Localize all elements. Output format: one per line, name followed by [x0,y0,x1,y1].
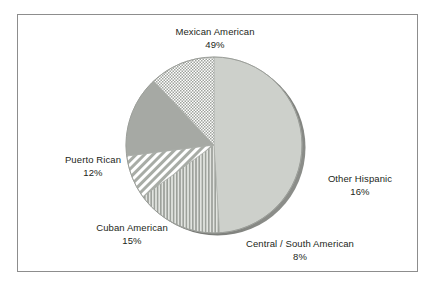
pie-slice-mexican-american[interactable] [214,57,302,233]
label-cuban-american: Cuban American 15% [66,222,198,247]
figure-root: Mexican American 49% Puerto Rican 12% Cu… [0,0,434,285]
label-mexican-american-name: Mexican American [140,26,290,39]
label-other-hispanic: Other Hispanic 16% [300,173,420,198]
pie-slices [126,57,302,233]
label-cuban-american-name: Cuban American [66,222,198,235]
label-central-south-american-name: Central / South American [222,238,378,251]
label-puerto-rican: Puerto Rican 12% [38,154,148,179]
label-central-south-american-value: 8% [222,251,378,264]
label-central-south-american: Central / South American 8% [222,238,378,263]
label-other-hispanic-value: 16% [300,186,420,199]
label-mexican-american: Mexican American 49% [140,26,290,51]
label-puerto-rican-value: 12% [38,167,148,180]
label-other-hispanic-name: Other Hispanic [300,173,420,186]
label-mexican-american-value: 49% [140,39,290,52]
label-puerto-rican-name: Puerto Rican [38,154,148,167]
label-cuban-american-value: 15% [66,235,198,248]
